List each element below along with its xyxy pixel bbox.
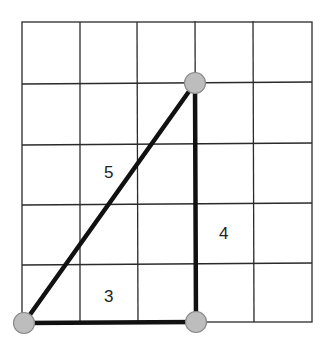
vertex-bottom-left-icon — [14, 313, 35, 334]
grid-line-h3 — [22, 203, 312, 205]
grid-line-v4 — [253, 21, 254, 322]
grid-frame — [22, 22, 312, 322]
vertex-top-icon — [185, 73, 206, 94]
horizontal-leg-edge — [24, 322, 196, 323]
horizontal-leg-label: 3 — [104, 288, 113, 305]
vertical-leg-label: 4 — [219, 225, 228, 242]
grid-line-h1 — [22, 82, 312, 84]
vertex-bottom-right-icon — [186, 312, 207, 333]
grid-line-v2 — [137, 22, 138, 322]
hypotenuse-label: 5 — [104, 164, 113, 181]
vertical-leg-edge — [195, 83, 196, 322]
triangle-grid-diagram — [0, 0, 334, 353]
grid-line-h2 — [22, 143, 312, 145]
grid — [22, 21, 312, 322]
